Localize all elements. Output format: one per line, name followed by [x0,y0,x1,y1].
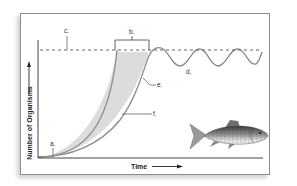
y-axis-title: Number of Organisms [26,86,34,160]
x-arrow-head-icon [177,165,183,169]
label-e-leader [143,78,156,85]
fish-icon [190,120,268,149]
label-b-bracket [115,40,149,50]
label-b: b. [129,28,135,35]
label-a: a. [50,140,56,147]
x-axis-title-group: Time [131,163,183,170]
label-f: f. [153,110,157,117]
y-arrow-head-icon [27,61,31,67]
x-axis-title: Time [131,163,147,170]
label-c: c. [64,27,69,34]
label-d: d. [186,68,192,75]
population-growth-diagram: Number of Organisms Time a. b. c. d. e. … [0,0,297,186]
y-axis-title-group: Number of Organisms [26,61,34,160]
label-e: e. [157,81,163,88]
